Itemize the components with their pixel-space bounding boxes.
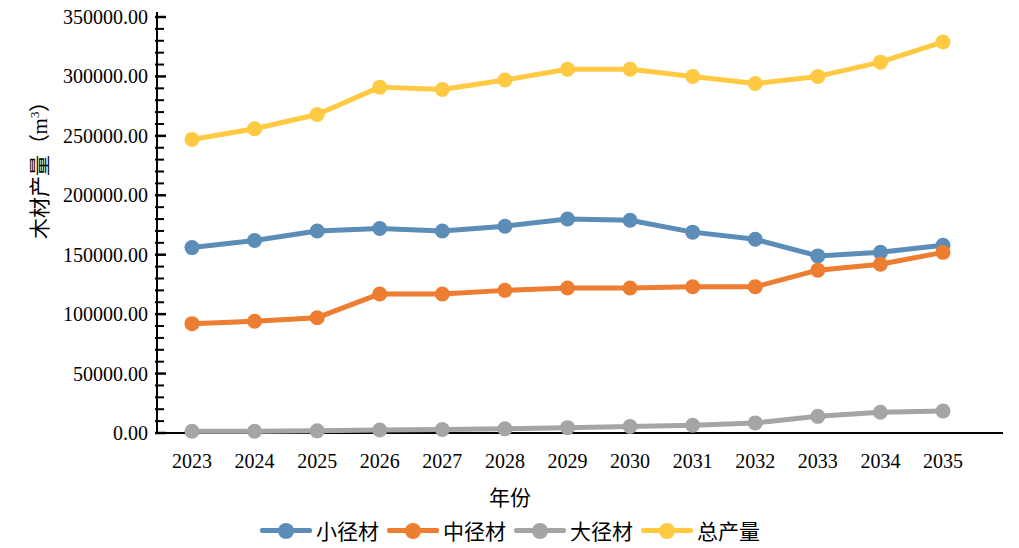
data-point (247, 314, 262, 329)
data-point (310, 223, 325, 238)
data-point (247, 424, 262, 439)
legend-item[interactable]: 大径材 (514, 515, 633, 545)
data-point (685, 69, 700, 84)
data-point (748, 415, 763, 430)
data-point (435, 286, 450, 301)
data-point (247, 121, 262, 136)
legend-marker-icon (405, 523, 421, 539)
data-point (435, 422, 450, 437)
data-point (623, 62, 638, 77)
data-point (310, 107, 325, 122)
y-tick-label: 0.00 (3, 422, 148, 445)
data-point (372, 423, 387, 438)
data-point (623, 280, 638, 295)
legend-label: 中径材 (443, 515, 506, 545)
y-tick-label: 200000.00 (3, 184, 148, 207)
data-point (685, 279, 700, 294)
data-point (873, 257, 888, 272)
legend-swatch-icon (387, 521, 439, 539)
series-layer (185, 34, 951, 438)
data-point (623, 419, 638, 434)
legend-label: 小径材 (316, 515, 379, 545)
data-point (497, 283, 512, 298)
data-point (873, 55, 888, 70)
data-point (310, 310, 325, 325)
data-point (685, 418, 700, 433)
data-point (560, 420, 575, 435)
legend-item[interactable]: 总产量 (641, 515, 760, 545)
legend-item[interactable]: 小径材 (260, 515, 379, 545)
x-axis-tick-labels: 2023202420252026202720282029203020312032… (0, 450, 1019, 480)
data-point (810, 248, 825, 263)
y-tick-label: 100000.00 (3, 303, 148, 326)
legend-item[interactable]: 中径材 (387, 515, 506, 545)
data-point (497, 72, 512, 87)
y-tick-label: 50000.00 (3, 362, 148, 385)
data-point (310, 423, 325, 438)
data-point (247, 233, 262, 248)
data-point (623, 213, 638, 228)
data-point (873, 405, 888, 420)
data-point (748, 76, 763, 91)
data-point (936, 34, 951, 49)
data-point (435, 82, 450, 97)
x-axis-title: 年份 (0, 481, 1019, 511)
data-point (560, 212, 575, 227)
y-tick-label: 250000.00 (3, 124, 148, 147)
data-point (560, 280, 575, 295)
chart-legend: 小径材中径材大径材总产量 (0, 515, 1019, 545)
data-point (185, 240, 200, 255)
legend-marker-icon (532, 523, 548, 539)
data-point (185, 316, 200, 331)
data-point (497, 421, 512, 436)
plot-svg (155, 10, 1005, 440)
legend-swatch-icon (514, 521, 566, 539)
data-point (685, 225, 700, 240)
data-point (372, 221, 387, 236)
data-point (810, 69, 825, 84)
data-point (936, 404, 951, 419)
legend-marker-icon (278, 523, 294, 539)
data-point (435, 223, 450, 238)
data-point (810, 409, 825, 424)
data-point (497, 219, 512, 234)
x-tick-label: 2035 (903, 450, 983, 473)
data-point (810, 263, 825, 278)
data-point (185, 424, 200, 439)
y-tick-label: 350000.00 (3, 6, 148, 29)
data-point (936, 245, 951, 260)
legend-swatch-icon (260, 521, 312, 539)
series-line-3 (192, 42, 943, 139)
legend-swatch-icon (641, 521, 693, 539)
axis-layer (155, 12, 1003, 433)
data-point (560, 62, 575, 77)
data-point (372, 80, 387, 95)
data-point (748, 279, 763, 294)
data-point (372, 286, 387, 301)
plot-area (155, 10, 1005, 440)
y-tick-label: 150000.00 (3, 243, 148, 266)
data-point (748, 232, 763, 247)
legend-label: 总产量 (697, 515, 760, 545)
legend-label: 大径材 (570, 515, 633, 545)
data-point (185, 132, 200, 147)
y-tick-label: 300000.00 (3, 65, 148, 88)
legend-marker-icon (659, 523, 675, 539)
wood-yield-line-chart: 木材产量（m3） 0.0050000.00100000.00150000.002… (0, 0, 1019, 548)
